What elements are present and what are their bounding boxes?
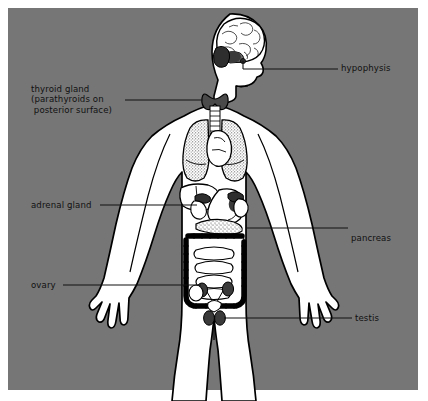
label-ovary: ovary: [31, 280, 56, 290]
trachea: [210, 106, 220, 134]
label-testis: testis: [355, 313, 379, 323]
label-thyroid-line1: thyroid gland: [31, 84, 89, 94]
label-thyroid-line3: posterior surface): [31, 105, 112, 115]
label-thyroid-gland: thyroid gland(parathyroids on posterior …: [31, 84, 112, 115]
label-pancreas: pancreas: [351, 233, 391, 243]
label-hypophysis: hypophysis: [341, 63, 391, 73]
label-thyroid-line2: (parathyroids on: [31, 94, 104, 104]
heart: [207, 131, 232, 167]
label-adrenal-gland: adrenal gland: [31, 200, 92, 210]
endocrine-system-diagram: hypophysis thyroid gland(parathyroids on…: [0, 0, 428, 401]
